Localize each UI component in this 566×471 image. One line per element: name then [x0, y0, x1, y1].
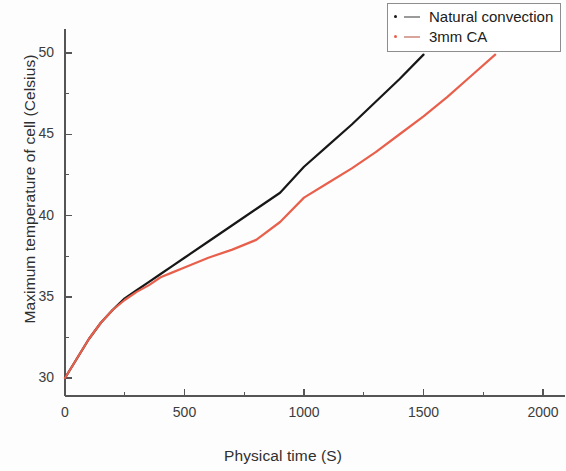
legend-item-3mm-ca: 3mm CA [392, 27, 556, 47]
axes [65, 29, 565, 396]
legend-marker-icon-3mm-ca [392, 30, 426, 44]
series-line-3mm-ca [65, 55, 495, 378]
legend-marker-icon-natural-convection [392, 10, 426, 24]
plot-area [0, 0, 566, 471]
x-tick-label: 500 [155, 404, 215, 420]
x-tick-label: 0 [35, 404, 95, 420]
x-tick-label: 1000 [274, 404, 334, 420]
x-tick-label: 1500 [394, 404, 454, 420]
y-axis-label-wrapper: Maximum temperature of cell (Celsius) [21, 0, 39, 394]
x-axis-label: Physical time (S) [0, 447, 566, 465]
y-axis-label: Maximum temperature of cell (Celsius) [21, 55, 39, 324]
x-tick-label: 2000 [513, 404, 566, 420]
legend-label-natural-convection: Natural convection [429, 7, 553, 27]
series-line-natural-convection [65, 55, 424, 378]
data-series [65, 55, 495, 378]
legend: Natural convection 3mm CA [387, 3, 561, 52]
legend-item-natural-convection: Natural convection [392, 7, 556, 27]
chart-figure: 0500100015002000 3035404550 Physical tim… [0, 0, 566, 471]
legend-label-3mm-ca: 3mm CA [429, 27, 487, 47]
